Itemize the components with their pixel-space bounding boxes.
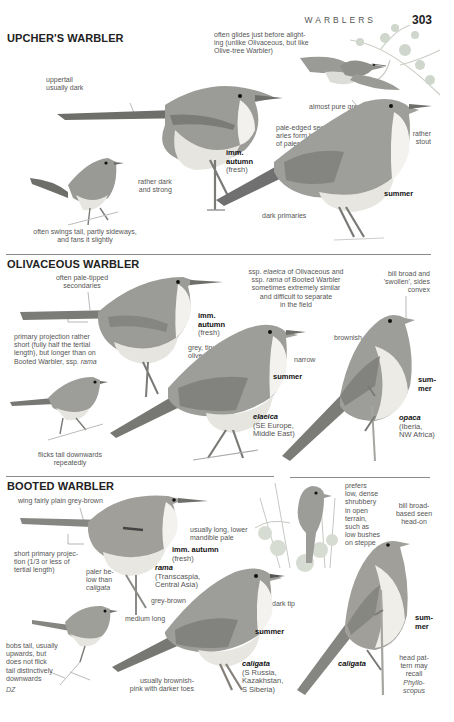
note-bobs-tail: bobs tail, usually upwards, but does not… bbox=[6, 642, 58, 683]
note-bill-broad-swollen: bill broad and 'swollen', sides convex bbox=[378, 270, 430, 295]
divider bbox=[6, 476, 274, 477]
label-opaca: opaca (Iberia, NW Africa) bbox=[399, 414, 435, 440]
bird-upchers-tail-swing bbox=[28, 150, 128, 225]
divider bbox=[6, 254, 431, 255]
note-legs-rather-dark: rather dark and strong bbox=[138, 178, 172, 194]
bird-olivaceous-elaeica-summer bbox=[108, 318, 308, 468]
note-primary-projection-olivaceous: primary projection rather short (fully h… bbox=[14, 333, 97, 366]
note-mandible-pale: usually long, lower mandible pale bbox=[190, 526, 248, 542]
label-upchers-summer: summer bbox=[384, 190, 413, 199]
section-title-olivaceous: OLIVACEOUS WARBLER bbox=[7, 258, 139, 270]
label-caligata: caligata (S Russia, Kazakhstan, S Siberi… bbox=[242, 660, 283, 694]
note-tail-swings: often swings tail, partly sideways, and … bbox=[20, 228, 150, 244]
bird-upchers-summer bbox=[214, 92, 434, 247]
note-flicks-tail: flicks tail downwards repeatedly bbox=[20, 451, 120, 467]
label-booted-imm-autumn: imm. autumn (fresh) bbox=[172, 546, 219, 563]
bird-upchers-flying bbox=[290, 20, 450, 100]
section-title-upchers: UPCHER'S WARBLER bbox=[7, 32, 124, 44]
label-caligata-2: caligata bbox=[338, 660, 366, 669]
note-dark-primaries: dark primaries bbox=[262, 212, 306, 220]
label-opaca-summer: sum- mer bbox=[418, 376, 436, 393]
bird-olivaceous-tail-flick bbox=[8, 372, 108, 442]
label-booted-summer-2: sum- mer bbox=[415, 614, 433, 631]
note-short-primary-projection: short primary projec- tion (1/3 or less … bbox=[14, 550, 78, 575]
label-booted-summer: summer bbox=[255, 628, 284, 637]
note-head-pattern-phylloscopus: head pat- tern may recall Phyllo- scopus bbox=[396, 654, 432, 695]
note-legs-brownish-pink: usually brownish- pink with darker toes bbox=[128, 677, 194, 693]
artist-credit: DZ bbox=[6, 686, 15, 693]
